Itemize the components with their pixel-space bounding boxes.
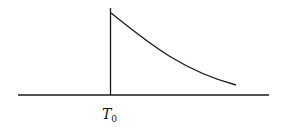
decay-curve (111, 13, 236, 85)
decay-diagram: T0 (0, 0, 282, 127)
t0-label: T0 (102, 106, 117, 124)
